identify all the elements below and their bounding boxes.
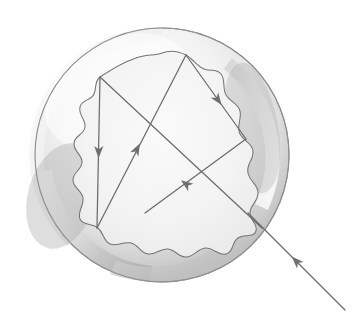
circular-particle — [14, 9, 289, 282]
ray-diagram-canvas — [0, 0, 351, 320]
ray-diagram-figure: Light ray reflections inside a circular … — [0, 0, 351, 320]
